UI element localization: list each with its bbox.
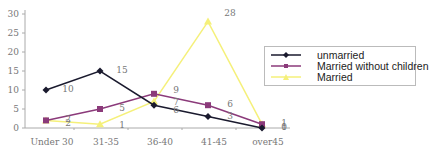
data-point — [205, 113, 212, 120]
data-point — [151, 91, 157, 97]
data-label: 1 — [119, 120, 125, 130]
legend-item-married: Married — [265, 71, 301, 83]
data-point — [97, 68, 104, 75]
data-label: 3 — [227, 111, 233, 121]
data-label: 9 — [173, 85, 179, 95]
data-label: 28 — [224, 8, 236, 18]
data-label: 1 — [281, 122, 287, 132]
x-tick-label: 31-35 — [93, 137, 119, 147]
data-point — [205, 102, 211, 108]
y-tick-label: 20 — [8, 47, 20, 57]
legend-label: Married — [317, 71, 353, 83]
data-label: 5 — [119, 103, 125, 113]
data-label: 6 — [227, 99, 233, 109]
axes: 051015202530Under 3031-3536-4041-45over4… — [8, 9, 290, 147]
y-tick-label: 25 — [8, 28, 20, 38]
y-tick-label: 15 — [8, 66, 20, 76]
data-label: 10 — [62, 84, 74, 94]
data-label: 15 — [116, 65, 128, 75]
x-tick-label: 41-45 — [201, 137, 227, 147]
triangle-marker-icon — [271, 71, 301, 83]
data-point — [97, 106, 103, 112]
data-label: 2 — [65, 118, 71, 128]
x-tick-label: over45 — [252, 137, 284, 147]
y-tick-label: 0 — [13, 123, 19, 133]
x-tick-label: Under 30 — [30, 137, 73, 147]
y-tick-label: 10 — [8, 85, 20, 95]
data-label: 7 — [173, 97, 179, 107]
data-point — [204, 18, 212, 25]
y-tick-label: 5 — [13, 104, 19, 114]
y-tick-label: 30 — [8, 9, 20, 19]
data-point — [43, 117, 49, 123]
legend: unmarried Married without children Marri… — [264, 46, 416, 86]
data-point — [43, 87, 50, 94]
x-tick-label: 36-40 — [147, 137, 173, 147]
